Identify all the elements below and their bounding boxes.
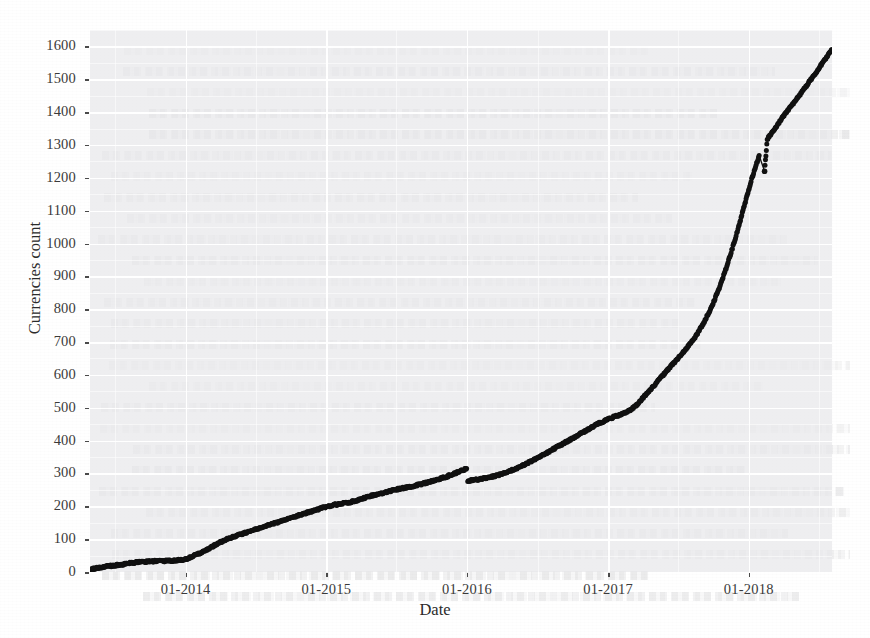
y-tick-label: 300 [0,464,76,481]
x-tick-label: 01-2016 [442,581,492,598]
y-tick-mark [85,408,89,410]
x-tick-mark [608,573,610,577]
y-tick-mark [85,79,89,81]
y-tick-label: 1600 [0,37,76,54]
y-tick-mark [85,309,89,311]
y-tick-mark [85,506,89,508]
y-tick-label: 400 [0,432,76,449]
x-tick-mark [749,573,751,577]
x-tick-label: 01-2015 [301,581,351,598]
x-tick-label: 01-2014 [161,581,211,598]
y-tick-mark [85,342,89,344]
y-tick-label: 1500 [0,70,76,87]
chart-figure: 0100200300400500600700800900100011001200… [0,0,870,638]
y-tick-mark [85,112,89,114]
y-tick-mark [85,441,89,443]
y-tick-mark [85,46,89,48]
y-tick-label: 1400 [0,103,76,120]
y-axis-title: Currencies count [25,138,45,418]
y-tick-mark [85,375,89,377]
x-tick-mark [186,573,188,577]
outlier-point [762,168,768,174]
y-tick-mark [85,244,89,246]
x-tick-mark [467,573,469,577]
x-axis-title: Date [0,600,870,620]
data-points [90,47,832,572]
y-tick-label: 100 [0,530,76,547]
y-tick-mark [85,211,89,213]
y-tick-mark [85,539,89,541]
x-tick-label: 01-2018 [724,581,774,598]
data-series-layer [90,30,832,572]
x-tick-label: 01-2017 [583,581,633,598]
y-tick-mark [85,473,89,475]
y-tick-mark [85,145,89,147]
x-tick-mark [326,573,328,577]
y-tick-label: 0 [0,563,76,580]
y-tick-mark [85,178,89,180]
y-tick-mark [85,276,89,278]
plot-panel [90,30,832,572]
y-tick-label: 200 [0,497,76,514]
y-tick-mark [85,572,89,574]
